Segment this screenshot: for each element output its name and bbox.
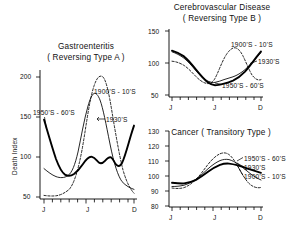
series-curve-1950s (172, 51, 261, 86)
x-axis-ticks (172, 97, 261, 101)
gastroenteritis-plot (0, 0, 145, 225)
panel-cerebrovascular: Cerebrovascular Disease ( Reversing Type… (145, 0, 299, 115)
cancer-plot (145, 115, 299, 225)
panel-gastroenteritis: Gastroenteritis ( Reversing Type A ) Dea… (0, 0, 145, 225)
panel-cancer: Cancer ( Transitory Type ) 130 120 110 1… (145, 115, 299, 225)
leader-1950s (237, 158, 243, 162)
series-curve-1950s (172, 164, 261, 184)
leader-1930s (97, 117, 105, 121)
x-axis-ticks (44, 199, 134, 204)
series-curve-1900s (172, 48, 261, 84)
series-curve-1950s (44, 120, 134, 176)
cerebrovascular-plot (145, 0, 299, 115)
x-axis-ticks (172, 207, 261, 211)
figure-root: Gastroenteritis ( Reversing Type A ) Dea… (0, 0, 299, 225)
series-curve-1900s (44, 76, 134, 196)
